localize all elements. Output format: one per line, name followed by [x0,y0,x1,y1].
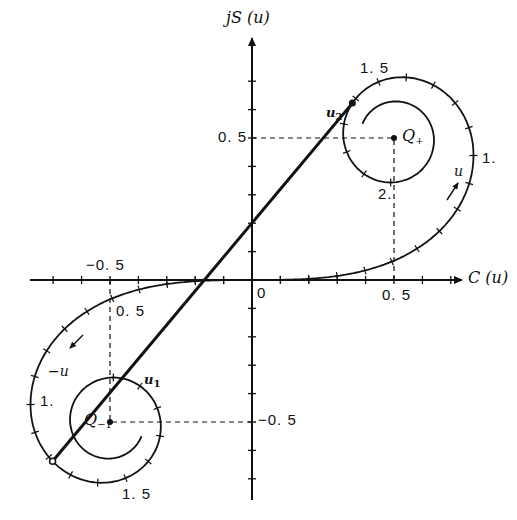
direction-label-u: u [454,164,463,178]
origin-label: 0 [257,285,266,300]
q-minus-label: Q−1 [84,412,112,430]
direction-label-neg-u: −u [48,364,69,378]
param-label-pos-1: 1. [482,150,497,165]
param-label-neg-1.5: 1. 5 [122,486,151,501]
y-axis-label: jS (u) [226,10,270,26]
param-label-0.5: 0. 5 [116,303,145,318]
param-label-pos-1.5: 1. 5 [360,60,389,75]
u1-label: u1 [144,373,160,389]
x-axis-label: C (u) [468,270,508,286]
param-label-pos-2: 2. [378,186,393,201]
x-tick-label-0.5: 0. 5 [382,287,411,302]
cornu-spiral-figure [0,0,517,520]
y-tick-label-neg-0.5: −0. 5 [258,412,297,427]
q-plus-label: Q+ [402,128,424,146]
y-tick-label-0.5: 0. 5 [218,129,247,144]
u2-label: u2 [326,106,342,122]
param-label-neg-1: 1. [40,393,55,408]
x-tick-label-neg-0.5: −0. 5 [86,257,125,272]
